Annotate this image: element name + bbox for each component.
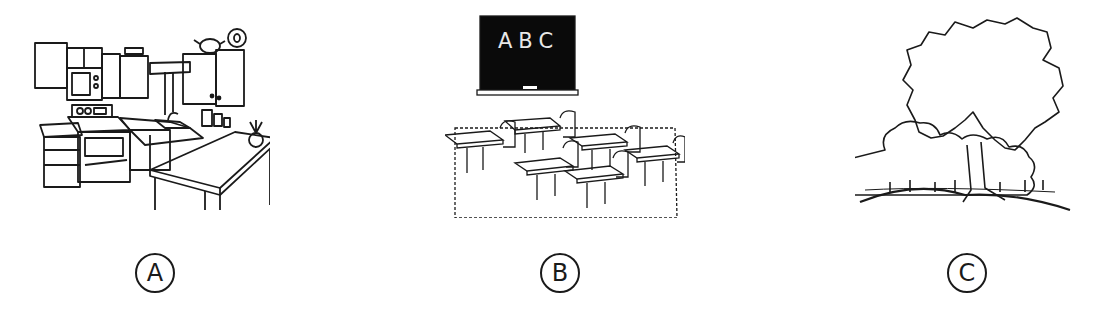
- kitchen-picture[interactable]: [30, 10, 270, 210]
- desk-group: [445, 111, 685, 208]
- option-a-letter: A: [147, 259, 163, 287]
- option-b-letter: B: [552, 259, 568, 287]
- option-label-c[interactable]: C: [947, 253, 987, 293]
- trees-picture[interactable]: [855, 10, 1075, 215]
- option-label-b[interactable]: B: [540, 253, 580, 293]
- chalkboard-text: ABC: [498, 29, 559, 53]
- classroom-picture[interactable]: ABC: [445, 8, 685, 218]
- option-c-letter: C: [959, 259, 976, 287]
- option-label-a[interactable]: A: [135, 253, 175, 293]
